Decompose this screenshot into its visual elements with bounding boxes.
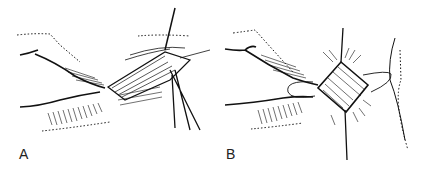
panel-label-a: A — [19, 146, 28, 162]
panel-a: A — [0, 0, 213, 169]
panel-label-b: B — [226, 146, 235, 162]
panel-b: B — [213, 0, 426, 169]
illustration-b — [213, 0, 426, 169]
illustration-a — [0, 0, 213, 169]
